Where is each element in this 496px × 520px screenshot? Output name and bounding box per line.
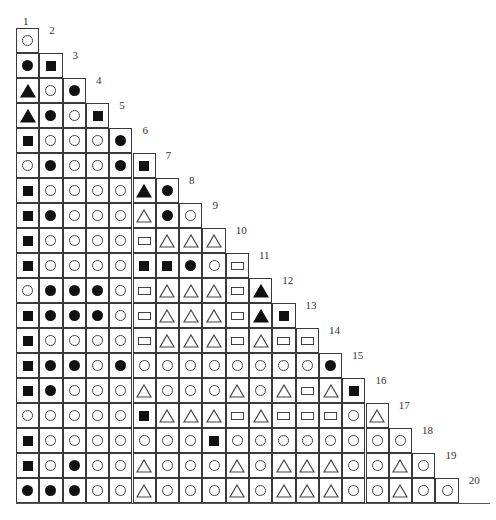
filled-circle-icon [22, 60, 33, 71]
index-label: 5 [119, 99, 125, 111]
open-triangle-icon [229, 484, 245, 498]
matrix-cell [133, 403, 156, 428]
matrix-cell [156, 428, 179, 453]
open-rectangle-icon [138, 237, 151, 245]
filled-circle-icon [45, 360, 56, 371]
matrix-cell [16, 78, 39, 103]
matrix-cell [109, 328, 132, 353]
open-circle-icon [115, 210, 126, 221]
open-circle-icon [115, 435, 126, 446]
open-triangle-icon [159, 284, 175, 298]
matrix-cell [179, 328, 202, 353]
filled-circle-icon [45, 285, 56, 296]
matrix-cell [319, 353, 342, 378]
matrix-cell [63, 428, 86, 453]
matrix-cell [39, 178, 62, 203]
filled-square-icon [139, 161, 149, 171]
matrix-cell [133, 428, 156, 453]
matrix-cell [226, 353, 249, 378]
matrix-cell [249, 328, 272, 353]
open-circle-icon [115, 460, 126, 471]
open-circle-icon [45, 260, 56, 271]
matrix-cell [179, 403, 202, 428]
matrix-cell [86, 478, 109, 503]
filled-circle-icon [45, 485, 56, 496]
matrix-cell [202, 303, 225, 328]
matrix-cell [16, 28, 39, 53]
matrix-cell [272, 428, 295, 453]
matrix-cell [249, 453, 272, 478]
matrix-cell [63, 328, 86, 353]
matrix-cell [272, 353, 295, 378]
open-circle-icon [45, 435, 56, 446]
open-circle-icon [92, 385, 103, 396]
open-circle-icon [92, 210, 103, 221]
open-circle-icon [209, 360, 220, 371]
matrix-cell [272, 403, 295, 428]
open-triangle-icon [159, 334, 175, 348]
matrix-cell [109, 153, 132, 178]
open-circle-icon [92, 235, 103, 246]
matrix-cell [86, 428, 109, 453]
filled-square-icon [23, 436, 33, 446]
matrix-cell [16, 428, 39, 453]
matrix-cell [179, 228, 202, 253]
matrix-cell [63, 378, 86, 403]
filled-square-icon [23, 236, 33, 246]
matrix-cell [342, 453, 365, 478]
index-label: 1 [23, 15, 29, 27]
open-triangle-icon [229, 384, 245, 398]
index-label: 8 [189, 174, 195, 186]
open-triangle-icon [206, 284, 222, 298]
matrix-cell [202, 253, 225, 278]
matrix-cell [342, 403, 365, 428]
open-circle-icon [209, 460, 220, 471]
matrix-cell [63, 178, 86, 203]
filled-circle-icon [69, 485, 80, 496]
open-triangle-icon [206, 409, 222, 423]
open-circle-icon [209, 385, 220, 396]
filled-square-icon [23, 361, 33, 371]
matrix-cell [109, 453, 132, 478]
matrix-cell [156, 478, 179, 503]
open-rectangle-icon [138, 312, 151, 320]
matrix-cell [109, 478, 132, 503]
matrix-cell [16, 403, 39, 428]
open-triangle-icon [183, 234, 199, 248]
open-circle-icon [22, 35, 33, 46]
open-circle-icon [302, 360, 313, 371]
matrix-cell [109, 178, 132, 203]
open-triangle-icon [136, 484, 152, 498]
index-label: 2 [49, 24, 55, 36]
open-triangle-icon [276, 459, 292, 473]
matrix-cell [249, 303, 272, 328]
matrix-cell [86, 103, 109, 128]
open-circle-icon [302, 435, 313, 446]
matrix-cell [39, 128, 62, 153]
open-circle-icon [115, 335, 126, 346]
matrix-cell [39, 203, 62, 228]
matrix-cell [109, 428, 132, 453]
matrix-cell [179, 378, 202, 403]
matrix-cell [86, 203, 109, 228]
open-circle-icon [69, 385, 80, 396]
matrix-cell [156, 328, 179, 353]
open-circle-icon [22, 285, 33, 296]
open-triangle-icon [206, 309, 222, 323]
matrix-cell [39, 428, 62, 453]
open-circle-icon [45, 85, 56, 96]
matrix-cell [86, 178, 109, 203]
matrix-cell [39, 353, 62, 378]
filled-circle-icon [115, 135, 126, 146]
open-circle-icon [22, 410, 33, 421]
filled-circle-icon [162, 210, 173, 221]
matrix-cell [86, 128, 109, 153]
open-circle-icon [115, 310, 126, 321]
filled-triangle-icon [136, 184, 152, 198]
matrix-cell [16, 453, 39, 478]
baseline-rule [16, 503, 490, 504]
open-circle-icon [372, 435, 383, 446]
filled-circle-icon [162, 185, 173, 196]
open-triangle-icon [323, 484, 339, 498]
open-circle-icon [255, 360, 266, 371]
